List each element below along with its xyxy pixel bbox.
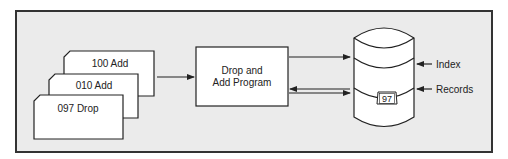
program-label-line2: Add Program (213, 77, 272, 88)
file-update-diagram: 100 Add 010 Add 097 Drop Drop and Add Pr… (0, 0, 508, 159)
index-label: Index (436, 59, 460, 70)
program-box: Drop and Add Program (196, 47, 288, 106)
program-label-line1: Drop and (221, 65, 262, 76)
records-label: Records (436, 84, 473, 95)
card-label: 100 Add (92, 58, 129, 69)
transaction-card-097-drop: 097 Drop (34, 95, 123, 139)
record-tag-label: 97 (382, 94, 392, 104)
card-label: 097 Drop (57, 103, 99, 114)
card-label: 010 Add (76, 80, 113, 91)
disk-storage-cylinder: 97 (354, 28, 414, 127)
record-tag: 97 (377, 92, 397, 104)
